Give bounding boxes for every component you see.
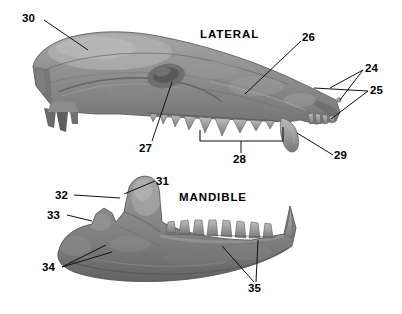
title-mandible: MANDIBLE	[179, 191, 247, 203]
label-25: 25	[370, 85, 383, 97]
label-31: 31	[156, 176, 169, 188]
label-34: 34	[42, 262, 55, 274]
label-30: 30	[22, 13, 35, 25]
leader-25	[314, 88, 368, 91]
leader-33	[67, 215, 92, 221]
leader-24-a	[340, 70, 363, 100]
leader-24-b	[330, 70, 363, 88]
label-32: 32	[55, 190, 68, 202]
label-28: 28	[233, 154, 246, 166]
label-27: 27	[139, 143, 152, 155]
label-26: 26	[302, 32, 315, 44]
title-lateral: LATERAL	[200, 28, 259, 40]
figure-plate: LATERAL MANDIBLE 30 26 24 25 27 28 29 31…	[0, 0, 402, 314]
leader-32	[74, 195, 120, 198]
leader-29	[297, 133, 333, 155]
skull-posterior-processes	[44, 101, 78, 132]
label-35: 35	[248, 283, 261, 295]
label-29: 29	[334, 150, 347, 162]
label-33: 33	[47, 210, 60, 222]
skull-lateral-photo	[25, 25, 355, 152]
mandible-photo	[50, 170, 310, 290]
label-24: 24	[365, 63, 378, 75]
